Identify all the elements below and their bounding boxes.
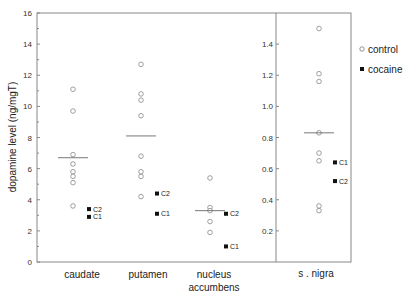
- svg-text:C2: C2: [161, 190, 170, 197]
- svg-text:0.8: 0.8: [262, 134, 274, 143]
- svg-text:14: 14: [23, 40, 32, 49]
- category-putamen: putamen: [129, 269, 168, 280]
- svg-text:0.6: 0.6: [262, 165, 274, 174]
- svg-text:C1: C1: [339, 159, 348, 166]
- svg-text:1.0: 1.0: [262, 102, 274, 111]
- svg-text:6: 6: [28, 165, 33, 174]
- category-s-nigra: s . nigra: [298, 268, 334, 279]
- plot-frame: [37, 13, 351, 262]
- svg-text:C1: C1: [230, 243, 239, 250]
- svg-text:12: 12: [23, 71, 32, 80]
- svg-text:1.4: 1.4: [262, 40, 274, 49]
- svg-text:C2: C2: [339, 178, 348, 185]
- svg-text:C1: C1: [161, 210, 170, 217]
- dopamine-chart: 0246810121416 0.20.40.60.81.01.21.4 dopa…: [0, 0, 413, 301]
- svg-text:4: 4: [28, 196, 33, 205]
- category-caudate: caudate: [64, 269, 100, 280]
- legend-square-icon: [360, 67, 364, 71]
- category-nucleus: nucleus: [197, 269, 231, 280]
- svg-text:C1: C1: [93, 213, 102, 220]
- legend-circle-icon: [360, 47, 364, 51]
- svg-text:1.2: 1.2: [262, 71, 274, 80]
- legend-control: control: [368, 44, 398, 55]
- svg-text:16: 16: [23, 9, 32, 18]
- svg-text:8: 8: [28, 134, 33, 143]
- legend-cocaine: cocaine: [368, 64, 403, 75]
- data-points: C2C1C2C1C2C1C1C2: [58, 26, 348, 250]
- svg-text:2: 2: [28, 227, 33, 236]
- svg-text:C2: C2: [230, 210, 239, 217]
- svg-text:0: 0: [28, 258, 33, 267]
- svg-text:10: 10: [23, 102, 32, 111]
- category-accumbens: accumbens: [188, 282, 239, 293]
- svg-text:C2: C2: [93, 206, 102, 213]
- y-axis-label: dopamine level (ng/mgT): [7, 82, 18, 193]
- svg-text:0.4: 0.4: [262, 196, 274, 205]
- svg-text:0.2: 0.2: [262, 227, 274, 236]
